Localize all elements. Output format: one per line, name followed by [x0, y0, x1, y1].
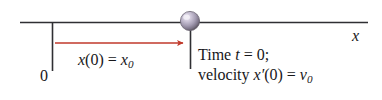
velocity-result-subscript: 0: [307, 73, 313, 85]
origin-label: 0: [40, 68, 48, 84]
velocity-equals: =: [287, 66, 296, 83]
time-prefix: Time: [198, 46, 231, 63]
position-result-var: x: [121, 51, 128, 68]
time-value: = 0;: [244, 46, 269, 63]
axis-label-x: x: [352, 28, 359, 44]
velocity-prefix: velocity: [198, 66, 250, 83]
velocity-result-var: v: [300, 66, 307, 83]
velocity-arg: (0): [264, 66, 283, 83]
position-result-subscript: 0: [128, 58, 134, 70]
particle-ball-icon: [180, 11, 199, 30]
initial-conditions-annotation: Time t = 0; velocity x′(0) = v0: [198, 47, 313, 85]
kinematics-diagram: 0 x(0) = x0 x Time t = 0; velocity x′(0)…: [0, 0, 382, 100]
position-equals: =: [108, 51, 117, 68]
time-variable: t: [235, 46, 239, 63]
velocity-variable: x: [254, 66, 261, 83]
velocity-condition-line: velocity x′(0) = v0: [198, 67, 313, 85]
position-arg: (0): [85, 51, 104, 68]
initial-position-label: x(0) = x0: [78, 52, 134, 70]
time-condition-line: Time t = 0;: [198, 47, 313, 63]
diagram-canvas: [0, 0, 382, 100]
